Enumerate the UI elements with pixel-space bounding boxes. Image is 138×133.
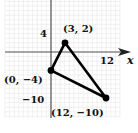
vertex-point-3-2 — [62, 39, 69, 46]
y-tick-4: 4 — [40, 28, 47, 39]
vertex-label-3-2: (3, 2) — [63, 23, 93, 35]
x-tick-12: 12 — [100, 55, 114, 66]
vertex-label-12-neg10: (12, −10) — [51, 107, 104, 119]
vertex-point-12-neg10 — [103, 95, 110, 102]
y-tick-neg10: −10 — [22, 94, 44, 105]
vertex-point-0-neg4 — [48, 67, 55, 74]
coordinate-plane: x 12 4 −10 (3, 2) (0, −4) (12, −10) — [0, 0, 138, 133]
x-axis-label: x — [126, 54, 134, 67]
vertex-label-0-neg4: (0, −4) — [4, 74, 43, 86]
